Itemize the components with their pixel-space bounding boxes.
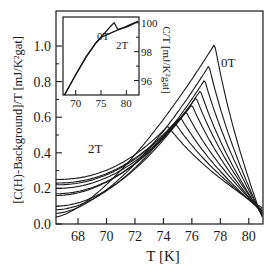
inset-y-tick-label: 96 bbox=[141, 75, 153, 87]
y-axis-label: [C(H)-Background]/T [mJ/K²gat] bbox=[11, 36, 25, 204]
y-tick-label: 0.2 bbox=[34, 181, 52, 196]
inset-annotation-0t: 0T bbox=[97, 30, 110, 42]
x-tick-label: 74 bbox=[156, 229, 170, 244]
x-tick-label: 70 bbox=[100, 229, 114, 244]
x-axis-label: T [K] bbox=[146, 248, 179, 264]
y-tick-label: 0.8 bbox=[34, 75, 52, 90]
annotation-2t: 2T bbox=[88, 141, 103, 156]
x-tick-label: 78 bbox=[213, 229, 227, 244]
inset-y-tick-label: 98 bbox=[141, 46, 153, 58]
inset-x-tick-label: 80 bbox=[121, 97, 133, 109]
curve-H5 bbox=[56, 99, 262, 213]
y-tick-label: 0.6 bbox=[34, 110, 52, 125]
annotation-0t: 0T bbox=[221, 55, 236, 70]
main-y-axis-ticks: 0.00.20.40.60.81.0 bbox=[34, 39, 63, 232]
inset-x-tick-label: 70 bbox=[70, 97, 82, 109]
x-tick-label: 80 bbox=[242, 229, 256, 244]
inset-x-tick-label: 75 bbox=[96, 97, 108, 109]
x-tick-label: 68 bbox=[71, 229, 85, 244]
inset-y-axis-label: C/T [mJ/K²gat] bbox=[161, 26, 173, 94]
x-tick-label: 72 bbox=[128, 229, 142, 244]
curve-H3 bbox=[56, 81, 262, 214]
inset-plot: 707580 9698100 C/T [mJ/K²gat] 0T 2T bbox=[63, 17, 173, 109]
x-tick-label: 76 bbox=[185, 229, 199, 244]
specific-heat-chart: 68707274767880 0.00.20.40.60.81.0 T [K] … bbox=[0, 0, 274, 272]
inset-frame bbox=[63, 17, 139, 95]
y-tick-label: 0.0 bbox=[34, 217, 52, 232]
curve-H7 bbox=[56, 113, 262, 211]
y-tick-label: 0.4 bbox=[34, 146, 52, 161]
inset-annotation-2t: 2T bbox=[116, 39, 129, 51]
y-tick-label: 1.0 bbox=[34, 39, 52, 54]
curve-H8 bbox=[56, 118, 262, 211]
main-x-axis-ticks: 68707274767880 bbox=[71, 218, 256, 244]
inset-y-tick-label: 100 bbox=[141, 17, 158, 29]
